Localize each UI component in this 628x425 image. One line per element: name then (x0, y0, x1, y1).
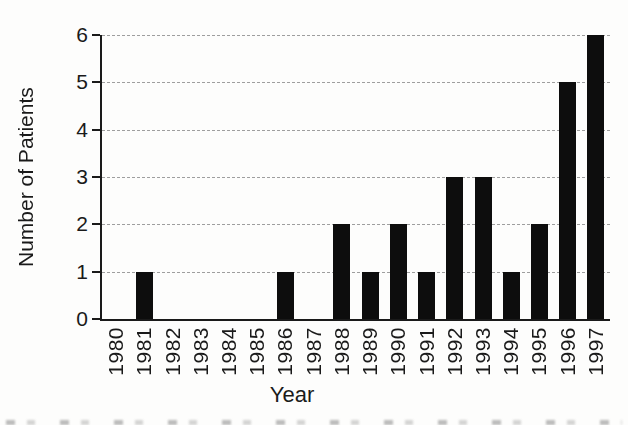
bar-1986 (277, 272, 294, 319)
bar-1981 (136, 272, 153, 319)
x-tick-label-1992: 1992 (443, 327, 467, 376)
bar-1994 (503, 272, 520, 319)
y-tick-mark-3 (92, 176, 100, 178)
bar-1992 (446, 177, 463, 319)
x-tick-label-1986: 1986 (273, 327, 297, 376)
bar-1995 (531, 224, 548, 319)
x-tick-label-1991: 1991 (415, 327, 439, 376)
gridline-y6 (102, 35, 610, 36)
y-axis-title: Number of Patients (14, 77, 40, 277)
x-tick-label-1995: 1995 (527, 327, 551, 376)
x-tick-label-1984: 1984 (217, 327, 241, 376)
gridline-y3 (102, 177, 610, 178)
gridline-y4 (102, 130, 610, 131)
x-tick-label-1983: 1983 (189, 327, 213, 376)
x-tick-label-1990: 1990 (386, 327, 410, 376)
x-tick-label-1981: 1981 (132, 327, 156, 376)
x-tick-label-1997: 1997 (584, 327, 608, 376)
x-tick-label-1985: 1985 (245, 327, 269, 376)
bar-1989 (362, 272, 379, 319)
y-tick-label-2: 2 (38, 212, 88, 236)
y-tick-label-4: 4 (38, 118, 88, 142)
y-tick-label-3: 3 (38, 165, 88, 189)
scan-artifact-cutoff-text (6, 420, 622, 425)
x-tick-label-1993: 1993 (471, 327, 495, 376)
y-tick-mark-4 (92, 129, 100, 131)
bar-1993 (475, 177, 492, 319)
x-axis-title: Year (247, 382, 337, 408)
bar-1988 (333, 224, 350, 319)
plot-area (100, 35, 610, 321)
x-tick-label-1989: 1989 (358, 327, 382, 376)
y-tick-mark-0 (92, 318, 100, 320)
x-tick-label-1994: 1994 (499, 327, 523, 376)
bar-1996 (559, 82, 576, 319)
x-tick-label-1988: 1988 (330, 327, 354, 376)
bar-chart-figure: Number of Patients Year 0123456198019811… (0, 0, 628, 425)
x-tick-label-1982: 1982 (161, 327, 185, 376)
y-tick-mark-1 (92, 271, 100, 273)
y-tick-mark-6 (92, 34, 100, 36)
x-tick-label-1980: 1980 (104, 327, 128, 376)
bar-1991 (418, 272, 435, 319)
x-tick-label-1987: 1987 (302, 327, 326, 376)
y-tick-label-6: 6 (38, 23, 88, 47)
y-tick-mark-5 (92, 81, 100, 83)
bar-1990 (390, 224, 407, 319)
bar-1997 (587, 35, 604, 319)
x-tick-label-1996: 1996 (556, 327, 580, 376)
y-tick-label-0: 0 (38, 307, 88, 331)
gridline-y5 (102, 82, 610, 83)
y-tick-label-5: 5 (38, 70, 88, 94)
y-tick-mark-2 (92, 223, 100, 225)
y-tick-label-1: 1 (38, 260, 88, 284)
